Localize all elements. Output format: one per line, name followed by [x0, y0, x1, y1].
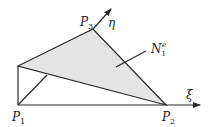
label-p1: P1 [11, 110, 25, 126]
label-p2: P2 [161, 110, 175, 126]
label-p3: P3 [79, 15, 93, 31]
shape-function-diagram: P1 P2 P3 ξ η N1e [0, 0, 212, 127]
edge-p1-p3-visible [18, 75, 47, 105]
label-shape-function: N1e [150, 41, 166, 58]
label-eta: η [108, 16, 116, 30]
label-xi: ξ [186, 88, 194, 102]
shape-function-surface [18, 29, 166, 105]
